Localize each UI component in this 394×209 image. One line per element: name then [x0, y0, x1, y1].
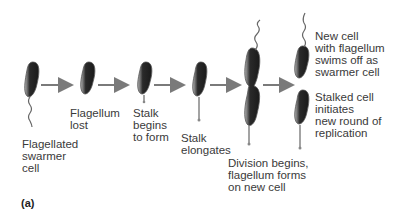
label-division: Division begins, flagellum forms on new … — [228, 157, 309, 193]
label-flagellum-lost: Flagellum lost — [70, 107, 120, 131]
swarmer-cell — [25, 62, 39, 127]
flagellum — [29, 97, 33, 127]
label-stalk-begins: Stalk begins to form — [133, 107, 169, 143]
label-new-cell: New cell with flagellum swims off as swa… — [315, 30, 385, 78]
stalked-cell-elongating — [193, 62, 207, 122]
new-swarmer-cell — [295, 13, 309, 78]
label-swarmer: Flagellated swarmer cell — [22, 138, 78, 174]
stalk-forming-cell — [138, 62, 152, 103]
dividing-cell — [245, 20, 260, 146]
panel-label: (a) — [21, 197, 34, 209]
stalked-cell-new — [295, 90, 309, 150]
label-stalk-elongates: Stalk elongates — [181, 132, 231, 156]
non-motile-cell — [81, 62, 95, 94]
label-stalked-cell: Stalked cell initiates new round of repl… — [315, 91, 382, 139]
